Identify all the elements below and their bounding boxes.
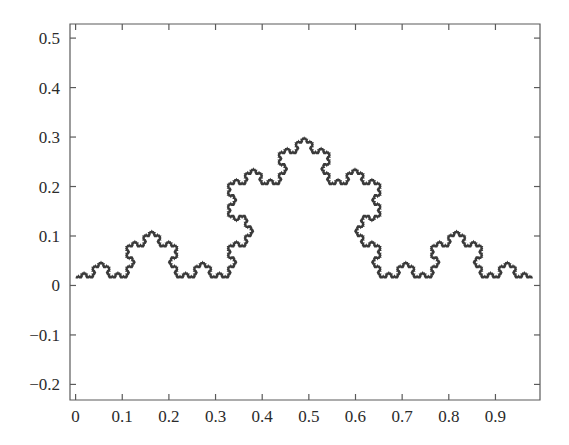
y-tick-label: 0.5 [39,29,60,48]
y-tick-label: 0.4 [39,79,61,98]
koch-curve-plot: 00.10.20.30.40.50.60.70.80.9 −0.2−0.100.… [0,0,569,445]
y-tick-label: 0.1 [39,227,60,246]
x-tick-label: 0.6 [345,407,366,426]
x-tick-label: 0.8 [438,407,459,426]
y-tick-label: 0.3 [39,128,60,147]
x-tick-label: 0.9 [485,407,506,426]
x-tick-label: 0.3 [205,407,226,426]
y-tick-label: −0.1 [29,326,60,345]
y-tick-label: −0.2 [29,375,60,394]
x-tick-label: 0.4 [252,407,274,426]
plot-background [0,0,569,445]
x-tick-label: 0.7 [392,407,414,426]
figure-canvas: 00.10.20.30.40.50.60.70.80.9 −0.2−0.100.… [0,0,569,445]
x-tick-label: 0.5 [298,407,319,426]
x-tick-label: 0 [71,407,80,426]
x-tick-label: 0.1 [112,407,133,426]
y-tick-label: 0.2 [39,178,60,197]
x-tick-label: 0.2 [158,407,179,426]
y-tick-label: 0 [52,276,61,295]
